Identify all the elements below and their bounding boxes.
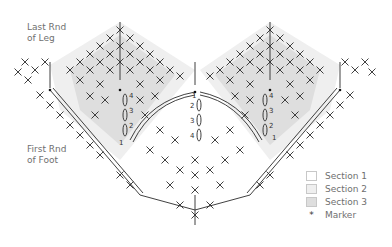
row-number: 2 <box>269 122 273 130</box>
legend-label: Section 1 <box>325 171 367 181</box>
legend-item-section-1: Section 1 <box>306 169 367 182</box>
row-number: 4 <box>269 92 274 100</box>
section-1-swatch <box>306 171 317 181</box>
legend-item-section-3: Section 3 <box>306 195 367 208</box>
row-number: 2 <box>129 122 133 130</box>
row-number: 3 <box>129 107 133 115</box>
legend-label: Section 3 <box>325 197 367 207</box>
row-number: 4 <box>190 132 195 140</box>
row-number: 1 <box>272 134 276 142</box>
row-number: 4 <box>129 92 134 100</box>
row-number: 2 <box>190 102 194 110</box>
legend-item-marker: * Marker <box>306 208 367 221</box>
asterisk-icon: * <box>306 210 317 220</box>
legend: Section 1 Section 2 Section 3 * Marker <box>306 169 367 221</box>
row-number: 3 <box>269 107 273 115</box>
row-number: 1 <box>119 139 123 147</box>
legend-item-section-2: Section 2 <box>306 182 367 195</box>
section-3-swatch <box>306 197 317 207</box>
row-number: 1 <box>192 92 196 100</box>
legend-label: Marker <box>325 210 356 220</box>
section-2-swatch <box>306 184 317 194</box>
legend-label: Section 2 <box>325 184 367 194</box>
row-number: 3 <box>190 117 194 125</box>
